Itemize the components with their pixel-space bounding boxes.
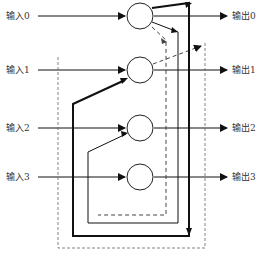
input-label-1: 输入1: [6, 65, 30, 75]
input-label-3: 输入3: [6, 172, 30, 182]
output-arrows: [154, 16, 227, 177]
nodes: [127, 3, 153, 190]
node-3: [127, 164, 153, 190]
input-label-0: 输入0: [6, 11, 30, 21]
down-arrow: [186, 228, 192, 236]
dashed-branch-1: [153, 46, 201, 64]
input-label-2: 输入2: [6, 123, 30, 133]
input-arrows: [38, 16, 125, 177]
node-2: [127, 115, 153, 141]
output-label-0: 输出0: [232, 11, 256, 21]
node-0: [127, 3, 153, 29]
diagram-canvas: [0, 0, 264, 263]
output-label-1: 输出1: [232, 65, 256, 75]
output-label-3: 输出3: [232, 172, 256, 182]
output-label-2: 输出2: [232, 123, 256, 133]
node-1: [127, 57, 153, 83]
